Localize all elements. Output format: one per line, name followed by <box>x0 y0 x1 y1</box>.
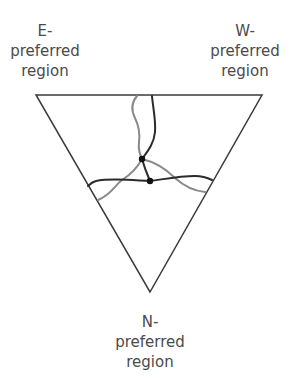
phase-triangle-diagram <box>0 0 290 379</box>
dark-boundary-curve-top <box>142 96 155 159</box>
upper-triple-point-dot <box>139 156 145 162</box>
dark-boundary-curve-right <box>150 176 212 181</box>
gray-boundary-curve-top <box>132 96 142 159</box>
dark-boundary-curve-middle <box>142 159 150 181</box>
lower-triple-point-dot <box>147 178 153 184</box>
triangle-outline <box>36 95 262 292</box>
